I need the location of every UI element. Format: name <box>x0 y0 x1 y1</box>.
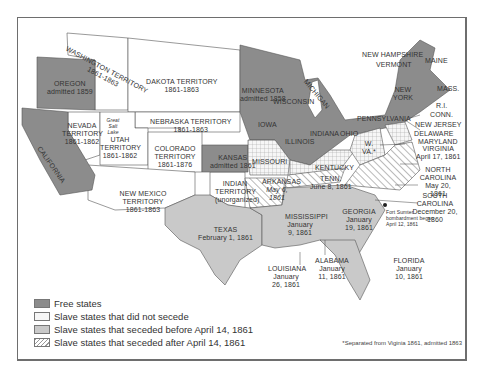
region-maryland-delaware <box>385 122 412 145</box>
label-colorado: COLORADO TERRITORY 1861-1876 <box>150 145 200 169</box>
label-new-york: NEW YORK <box>392 86 414 102</box>
label-text: ARKANSAS <box>262 178 292 186</box>
label-new-jersey: NEW JERSEY <box>415 121 462 129</box>
label-text: MASS. <box>437 85 459 92</box>
label-text: PENNSYLVANIA <box>357 115 411 122</box>
label-dates: 1861-1863 <box>150 126 232 134</box>
legend-swatch-seceded-after <box>34 338 50 347</box>
label-dates: 1861-1863 <box>118 206 168 214</box>
label-text: INDIANA <box>310 130 339 137</box>
label-text: TENN. <box>310 175 352 183</box>
label-dates: 1861-1862 <box>100 152 140 160</box>
legend-swatch-free <box>34 299 50 308</box>
label-dates: January 9, 1861 <box>285 221 315 237</box>
label-text: INDIAN TERRITORY <box>215 180 255 196</box>
label-dates: (unorganized) <box>215 196 255 204</box>
label-rhode-island: R.I. <box>436 102 447 110</box>
label-dates: admitted 1861 <box>210 162 256 170</box>
label-oregon: OREGON admitted 1859 <box>47 80 93 96</box>
label-dates: admitted 1859 <box>47 88 93 96</box>
label-text: COLORADO TERRITORY <box>150 145 200 161</box>
label-wisconsin: WISCONSIN <box>273 98 314 106</box>
label-maine: MAINE <box>425 57 448 65</box>
label-text: TEXAS <box>198 226 253 234</box>
footnote: *Separated from Viginia 1861, admitted 1… <box>342 340 462 346</box>
label-utah: UTAH TERRITORY 1861-1862 <box>100 136 140 160</box>
label-indian: INDIAN TERRITORY (unorganized) <box>215 180 255 204</box>
label-text: LOUISIANA <box>268 265 304 273</box>
label-text: Great Salt Lake <box>106 117 119 135</box>
label-dates: May 6, 1861 <box>262 186 292 202</box>
label-dates: January 26, 1861 <box>268 273 304 289</box>
label-text: WISCONSIN <box>273 98 314 105</box>
label-dates: 1861-1863 <box>146 86 218 94</box>
label-text: MISSISSIPPI <box>285 213 315 221</box>
legend-swatch-seceded-before <box>34 325 50 334</box>
legend-label: Slave states that seceded after April 14… <box>54 337 245 348</box>
label-new-mexico: NEW MEXICO TERRITORY 1861-1863 <box>118 190 168 214</box>
label-dates: June 8, 1861 <box>310 183 352 191</box>
label-dates: January 10, 1861 <box>392 265 426 281</box>
label-new-hampshire: NEW HAMPSHIRE <box>362 51 423 59</box>
label-massachusetts: MASS. <box>437 85 459 93</box>
label-text: MARYLAND <box>418 138 458 145</box>
label-text: VIRGINIA <box>416 145 461 153</box>
legend-label: Free states <box>54 298 102 309</box>
label-text: VERMONT <box>376 61 412 68</box>
label-arkansas: ARKANSAS May 6, 1861 <box>262 178 292 202</box>
legend-label: Slave states that did not secede <box>54 311 189 322</box>
label-dates: bombardment began April 12, 1861 <box>386 215 436 227</box>
label-missouri: MISSOURI <box>252 158 287 166</box>
label-text: KENTUCKY <box>315 164 354 171</box>
label-dates: January 19, 1861 <box>342 216 376 232</box>
label-text: W. VA.* <box>362 140 376 155</box>
label-north-carolina: NORTH CAROLINA May 20, 1861 <box>418 166 458 198</box>
label-dates: May 20, 1861 <box>418 182 458 198</box>
label-kansas: KANSAS admitted 1861 <box>210 154 256 170</box>
label-text: CONN. <box>430 111 453 118</box>
label-text: IOWA <box>258 121 277 128</box>
fort-sumter-marker <box>383 203 387 207</box>
region-dakota <box>128 38 240 112</box>
label-dates: February 1, 1861 <box>198 234 253 242</box>
label-text: NEVADA TERRITORY <box>62 122 102 138</box>
label-florida: FLORIDA January 10, 1861 <box>392 257 426 281</box>
label-text: OREGON <box>47 80 93 88</box>
legend-item-seceded-before: Slave states that seceded before April 1… <box>34 323 253 336</box>
map-legend: Free states Slave states that did not se… <box>34 297 253 349</box>
label-text: FLORIDA <box>392 257 426 265</box>
label-text: GEORGIA <box>342 208 376 216</box>
label-text: NORTH CAROLINA <box>418 166 458 182</box>
label-dates: 1861-1876 <box>150 161 200 169</box>
label-text: NEBRASKA TERRITORY <box>150 118 232 126</box>
label-text: DELAWARE <box>414 130 454 137</box>
label-kentucky: KENTUCKY <box>315 164 354 172</box>
label-nebraska: NEBRASKA TERRITORY 1861-1863 <box>150 118 232 134</box>
label-text: MINNESOTA <box>240 87 286 95</box>
label-delaware: DELAWARE <box>414 130 454 138</box>
label-text: NEW YORK <box>393 86 413 101</box>
label-georgia: GEORGIA January 19, 1861 <box>342 208 376 232</box>
label-iowa: IOWA <box>258 121 277 129</box>
label-vermont: VERMONT <box>376 61 412 69</box>
label-text: ALABAMA <box>314 257 350 265</box>
legend-swatch-not-seceded <box>34 312 50 321</box>
label-text: NEW MEXICO TERRITORY <box>118 190 168 206</box>
label-dates: 1861-1862 <box>62 138 102 146</box>
label-alabama: ALABAMA January 11, 1861 <box>314 257 350 281</box>
label-connecticut: CONN. <box>430 111 453 119</box>
label-pennsylvania: PENNSYLVANIA <box>357 115 411 123</box>
label-text: NEW JERSEY <box>415 121 462 128</box>
label-indiana: INDIANA <box>310 130 339 138</box>
legend-item-free: Free states <box>34 297 253 310</box>
legend-item-seceded-after: Slave states that seceded after April 14… <box>34 336 253 349</box>
label-fort-sumter: Fort Sumter bombardment began April 12, … <box>386 209 436 227</box>
label-dates: April 17, 1861 <box>416 153 461 161</box>
label-louisiana: LOUISIANA January 26, 1861 <box>268 265 304 289</box>
label-dakota: DAKOTA TERRITORY 1861-1863 <box>146 78 218 94</box>
label-great-salt-lake: Great Salt Lake <box>104 117 122 135</box>
label-text: DAKOTA TERRITORY <box>146 78 218 86</box>
label-virginia: VIRGINIA April 17, 1861 <box>416 145 461 161</box>
label-dates: January 11, 1861 <box>314 265 350 281</box>
label-ohio: OHIO <box>340 130 358 138</box>
